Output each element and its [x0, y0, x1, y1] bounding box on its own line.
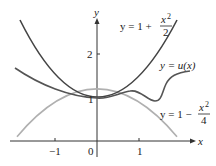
x-axis-label: x [197, 135, 203, 147]
svg-text:y = 1 −: y = 1 − [160, 108, 192, 120]
y-tick-label-2: 2 [87, 48, 93, 60]
lower-curve-label: y = 1 − x 2 4 [160, 100, 210, 126]
x-tick-label-1: 1 [137, 145, 143, 157]
svg-text:4: 4 [201, 114, 207, 126]
x-tick-label-0: 0 [88, 145, 94, 157]
svg-text:x: x [198, 101, 204, 113]
chart: −1 0 1 1 2 x y y = 1 + x 2 2 y = u(x) y … [0, 0, 216, 166]
x-axis-arrow-icon [190, 139, 196, 144]
y-axis-arrow-icon [95, 18, 100, 24]
y-tick-label-1: 1 [88, 93, 94, 105]
curve-upper-bound [20, 20, 177, 97]
svg-text:2: 2 [167, 12, 171, 21]
svg-text:2: 2 [205, 100, 209, 109]
x-tick-label-neg1: −1 [49, 145, 61, 157]
u-curve-label: y = u(x) [159, 59, 196, 72]
svg-text:x: x [160, 13, 166, 25]
svg-text:y = 1 +: y = 1 + [120, 20, 152, 32]
y-axis-label: y [93, 6, 99, 18]
upper-curve-label: y = 1 + x 2 2 [120, 12, 172, 38]
svg-text:2: 2 [163, 26, 169, 38]
